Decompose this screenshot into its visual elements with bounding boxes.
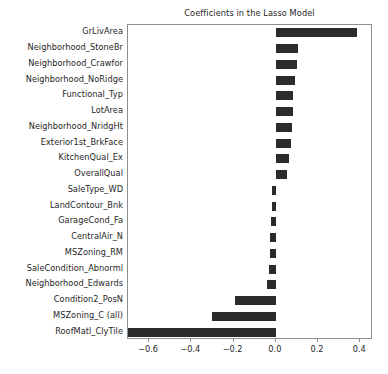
bar [271, 217, 276, 226]
bar [276, 60, 297, 69]
y-axis-tick-label: OverallQual [0, 169, 123, 178]
y-axis-tick-label: Neighborhood_Crawfor [0, 59, 123, 68]
y-axis-tick-label: Neighborhood_NridgHt [0, 122, 123, 131]
x-axis-tick-mark [359, 339, 360, 342]
y-axis-tick-label: RoofMatl_ClyTile [0, 327, 123, 336]
y-axis-tick-label: CentralAir_N [0, 232, 123, 241]
bar [267, 280, 275, 289]
y-axis-tick-label: LotArea [0, 106, 123, 115]
y-axis-tick-label: MSZoning_C (all) [0, 311, 123, 320]
y-axis-tick-label: SaleCondition_Abnorml [0, 264, 123, 273]
bar [276, 76, 295, 85]
bar [276, 154, 290, 163]
bar [276, 123, 292, 132]
bar [276, 28, 357, 37]
x-axis-tick-mark [190, 339, 191, 342]
y-axis-tick-label: MSZoning_RM [0, 248, 123, 257]
y-axis-tick-label: Neighborhood_NoRidge [0, 75, 123, 84]
y-axis-tick-label: GrLivArea [0, 27, 123, 36]
bar [212, 312, 275, 321]
x-axis-tick-mark [275, 339, 276, 342]
bar [270, 249, 276, 258]
y-axis-label-group: GrLivAreaNeighborhood_StoneBrNeighborhoo… [0, 24, 123, 339]
x-axis-tick-label: −0.6 [128, 344, 168, 354]
y-axis-tick-label: Neighborhood_StoneBr [0, 43, 123, 52]
y-axis-tick-label: LandContour_Bnk [0, 201, 123, 210]
bar [270, 233, 275, 242]
x-axis-tick-label: 0.4 [339, 344, 379, 354]
bars-layer [128, 25, 371, 338]
bar [276, 139, 291, 148]
bar [272, 202, 276, 211]
y-axis-tick-label: GarageCond_Fa [0, 216, 123, 225]
bar [276, 107, 293, 116]
bar [276, 91, 294, 100]
y-axis-tick-label: SaleType_WD [0, 185, 123, 194]
x-axis-tick-mark [233, 339, 234, 342]
x-axis-tick-label: −0.4 [170, 344, 210, 354]
bar [276, 170, 287, 179]
bar [235, 296, 276, 305]
chart-title: Coefficients in the Lasso Model [127, 8, 372, 18]
x-axis: −0.6−0.4−0.20.00.20.4 [127, 339, 372, 365]
y-axis-tick-label: KitchenQual_Ex [0, 153, 123, 162]
x-axis-tick-label: −0.2 [213, 344, 253, 354]
bar [276, 44, 298, 53]
x-axis-tick-label: 0.2 [297, 344, 337, 354]
y-axis-tick-label: Functional_Typ [0, 90, 123, 99]
plot-area [127, 24, 372, 339]
x-axis-tick-label: 0.0 [255, 344, 295, 354]
x-axis-tick-mark [317, 339, 318, 342]
bar [272, 186, 276, 195]
x-axis-tick-mark [148, 339, 149, 342]
lasso-coefficients-figure: Coefficients in the Lasso Model GrLivAre… [0, 0, 388, 374]
y-axis-tick-label: Neighborhood_Edwards [0, 279, 123, 288]
y-axis-tick-label: Condition2_PosN [0, 295, 123, 304]
y-axis-tick-label: Exterior1st_BrkFace [0, 138, 123, 147]
bar [269, 265, 276, 274]
bar [128, 328, 276, 337]
